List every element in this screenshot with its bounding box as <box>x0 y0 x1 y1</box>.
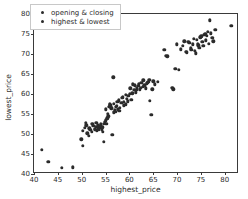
data-point <box>120 96 123 99</box>
data-point <box>146 81 149 84</box>
x-tick-mark <box>201 172 202 175</box>
y-tick-mark <box>31 154 34 155</box>
data-point <box>118 109 121 112</box>
data-point <box>200 35 203 38</box>
data-point <box>71 165 74 168</box>
data-point <box>81 144 84 147</box>
plot-area: 404550556065707580 404550556065707580 <box>33 13 238 173</box>
data-point <box>212 39 215 42</box>
data-point <box>201 40 204 43</box>
data-point <box>194 51 197 54</box>
legend-marker-icon <box>41 11 44 14</box>
x-axis-label: highest_price <box>33 185 238 194</box>
x-tick-mark <box>225 172 226 175</box>
data-point <box>148 99 151 102</box>
y-tick-mark <box>31 54 34 55</box>
x-tick-mark <box>106 172 107 175</box>
data-point <box>102 140 105 143</box>
legend: opening & closing highest & lowest <box>30 4 121 30</box>
data-point <box>205 34 208 37</box>
data-point <box>230 24 233 27</box>
data-point <box>81 129 84 132</box>
legend-item: opening & closing <box>35 8 114 17</box>
scatter-plot-figure: lowest_price 404550556065707580 40455055… <box>0 0 248 199</box>
data-point <box>126 99 129 102</box>
y-tick-mark <box>31 134 34 135</box>
data-point <box>111 75 114 78</box>
data-point <box>208 19 211 22</box>
data-point <box>110 133 113 136</box>
y-tick-mark <box>31 94 34 95</box>
x-tick-mark <box>153 172 154 175</box>
data-point <box>141 79 144 82</box>
data-point <box>185 51 188 54</box>
data-point <box>195 38 198 41</box>
data-point <box>202 44 205 47</box>
data-point <box>102 122 105 125</box>
data-point <box>87 134 90 137</box>
y-axis-label: lowest_price <box>4 63 13 133</box>
data-point <box>177 68 180 71</box>
data-point <box>182 39 185 42</box>
legend-marker-icon <box>41 20 44 23</box>
legend-label: opening & closing <box>51 9 114 17</box>
x-tick-mark <box>129 172 130 175</box>
data-point <box>100 125 103 128</box>
data-point <box>112 111 115 114</box>
data-point <box>209 31 212 34</box>
data-point <box>139 86 142 89</box>
data-point <box>207 42 210 45</box>
data-point <box>131 91 134 94</box>
data-point <box>40 148 43 151</box>
data-point <box>101 130 104 133</box>
data-point <box>162 48 165 51</box>
data-point <box>213 28 216 31</box>
data-point <box>137 82 140 85</box>
data-point <box>47 160 50 163</box>
data-point <box>175 43 178 46</box>
data-point <box>116 100 119 103</box>
x-tick-mark <box>82 172 83 175</box>
y-tick-mark <box>31 114 34 115</box>
y-tick-mark <box>31 34 34 35</box>
legend-item: highest & lowest <box>35 17 114 26</box>
data-point <box>198 46 201 49</box>
data-point <box>135 88 138 91</box>
data-point <box>150 113 153 116</box>
x-tick-mark <box>58 172 59 175</box>
legend-label: highest & lowest <box>51 18 110 26</box>
data-point <box>104 107 107 110</box>
data-point <box>151 87 154 90</box>
data-point <box>156 80 159 83</box>
x-tick-mark <box>177 172 178 175</box>
data-point <box>60 166 63 169</box>
data-point <box>179 47 182 50</box>
data-point <box>79 137 82 140</box>
x-tick-mark <box>34 172 35 175</box>
data-point <box>130 98 133 101</box>
data-point <box>191 43 194 46</box>
data-point <box>122 103 125 106</box>
y-tick-mark <box>31 74 34 75</box>
